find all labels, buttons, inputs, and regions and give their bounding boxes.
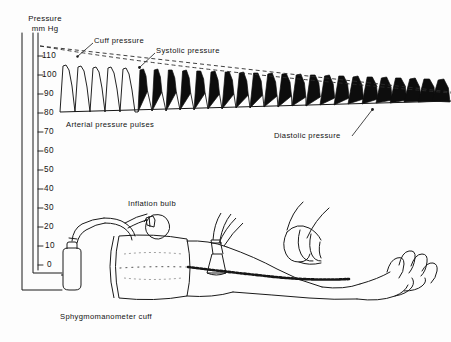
figure-drawing bbox=[0, 0, 451, 342]
tick-label-10: 10 bbox=[45, 241, 55, 250]
tick-label-80: 80 bbox=[44, 108, 54, 117]
tick-label-100: 100 bbox=[42, 70, 57, 79]
axis-title-line2: mm Hg bbox=[14, 24, 76, 34]
rubber-tubing bbox=[69, 214, 147, 243]
tick-label-40: 40 bbox=[44, 184, 54, 193]
tick-label-50: 50 bbox=[44, 165, 54, 174]
tick-label-30: 30 bbox=[44, 203, 54, 212]
label-diastolic-pressure: Diastolic pressure bbox=[274, 132, 341, 141]
sphygmomanometer-cuff bbox=[110, 235, 190, 300]
stethoscope-head bbox=[207, 213, 243, 275]
tick-label-110: 110 bbox=[42, 51, 56, 60]
scale-ticks bbox=[38, 56, 43, 265]
label-cuff-pressure: Cuff pressure bbox=[94, 37, 144, 46]
label-systolic-pressure: Systolic pressure bbox=[156, 47, 220, 56]
tick-label-0: 0 bbox=[47, 260, 52, 269]
patient-hand-fingers bbox=[387, 251, 437, 291]
arterial-pulse-trace bbox=[60, 65, 135, 112]
label-inflation-bulb: Inflation bulb bbox=[128, 200, 176, 209]
tick-label-90: 90 bbox=[44, 89, 54, 98]
tick-label-60: 60 bbox=[44, 146, 54, 155]
blood-pressure-measurement-figure: Pressure mm Hg 110 100 90 80 70 60 50 40… bbox=[0, 0, 451, 342]
axis-title-block: Pressure mm Hg bbox=[14, 14, 76, 33]
examiner-hand bbox=[284, 202, 329, 264]
axis-title-line1: Pressure bbox=[14, 14, 76, 24]
label-arterial-pressure-pulses: Arterial pressure pulses bbox=[66, 121, 154, 130]
tick-label-70: 70 bbox=[44, 127, 54, 136]
mercury-reservoir bbox=[61, 242, 81, 290]
label-sphygmomanometer-cuff: Sphygmomanometer cuff bbox=[60, 313, 152, 322]
tick-label-20: 20 bbox=[44, 222, 54, 231]
brachial-artery-dotted-line bbox=[120, 267, 349, 280]
